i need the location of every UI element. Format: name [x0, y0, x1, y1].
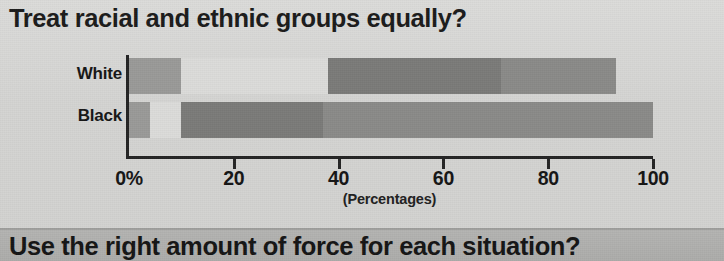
bar-segment [129, 58, 181, 94]
x-axis-tick-label: 0% [115, 167, 143, 190]
bar-segment [501, 58, 616, 94]
x-axis-tick-label: 20 [223, 167, 244, 190]
next-question-title: Use the right amount of force for each s… [9, 232, 580, 261]
bar-segment [150, 102, 181, 138]
banner-top-edge [0, 228, 724, 230]
category-label-black: Black [10, 106, 122, 126]
bar-segment [323, 102, 653, 138]
bar-segment [129, 102, 150, 138]
x-axis-tick-label: 40 [328, 167, 349, 190]
bar-segment [181, 102, 322, 138]
next-question-banner: Use the right amount of force for each s… [0, 228, 724, 261]
chart-page: Treat racial and ethnic groups equally? … [0, 0, 724, 261]
x-axis-tick-label: 100 [637, 167, 669, 190]
category-label-white: White [10, 64, 122, 84]
category-axis: White Black [2, 54, 122, 164]
bar-black [129, 102, 653, 138]
bar-segment [181, 58, 328, 94]
bar-segment [328, 58, 501, 94]
x-axis-tick-label: 80 [538, 167, 559, 190]
x-axis-tick-label: 60 [433, 167, 454, 190]
chart-title: Treat racial and ethnic groups equally? [9, 3, 709, 33]
x-axis-caption: (Percentages) [126, 191, 653, 207]
x-axis-line [126, 156, 653, 159]
plot-area: White Black 0%20406080100 (Percentages) [0, 54, 724, 164]
bar-white [129, 58, 616, 94]
